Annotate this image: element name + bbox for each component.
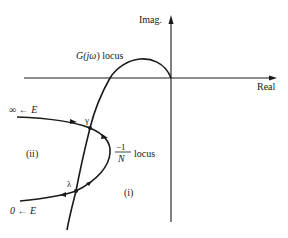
- region-i-label: (i): [124, 187, 133, 199]
- real-axis-arrow-icon: [269, 76, 277, 81]
- g-locus-label-prefix: G(: [76, 50, 87, 62]
- imag-axis-label: Imag.: [139, 14, 162, 25]
- gamma-label: γ: [84, 115, 89, 125]
- describing-function-locus-curve: [17, 117, 110, 201]
- gamma-point: [88, 126, 92, 130]
- describing-locus-numerator: −1: [116, 142, 126, 152]
- g-locus-label: G(jω) locus: [76, 50, 123, 62]
- locus-direction-arrow-icon: [101, 134, 108, 139]
- g-locus-label-omega: ω: [89, 50, 96, 61]
- bottom-endpoint-label: 0 ← E: [10, 205, 36, 216]
- imag-axis-arrow-icon: [169, 15, 174, 24]
- describing-locus-denominator: N: [117, 153, 126, 164]
- describing-locus-suffix: locus: [134, 148, 155, 159]
- nyquist-diagram: Imag. Real G(jω) locus γ λ ∞ ← E 0 ← E (…: [0, 0, 288, 238]
- g-locus-label-suffix: ) locus: [96, 50, 123, 62]
- lambda-label: λ: [67, 179, 72, 189]
- region-ii-label: (ii): [26, 148, 38, 160]
- top-endpoint-label: ∞ ← E: [9, 104, 37, 115]
- real-axis-label: Real: [257, 81, 276, 92]
- lambda-point: [74, 189, 78, 193]
